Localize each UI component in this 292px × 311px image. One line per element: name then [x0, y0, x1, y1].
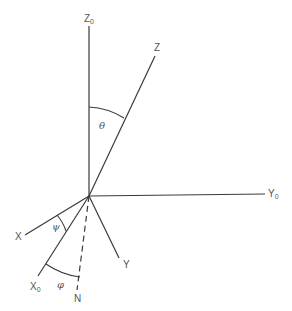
theta-arc	[89, 107, 124, 118]
y-label: Y	[123, 259, 130, 270]
x0-label: X0	[30, 281, 41, 293]
phi-arc	[46, 264, 80, 277]
n-label: N	[74, 293, 81, 304]
theta-label: θ	[99, 120, 105, 131]
y0-axis	[89, 194, 265, 196]
x-label: X	[15, 231, 22, 242]
y-axis	[89, 196, 119, 258]
euler-angle-diagram: Z0 Z Y0 Y X X0 N θ ψ φ	[0, 0, 292, 311]
psi-label: ψ	[52, 221, 60, 232]
x0-axis	[38, 196, 89, 276]
line-of-nodes-n	[77, 196, 89, 290]
phi-label: φ	[57, 279, 64, 290]
z0-label: Z0	[84, 13, 94, 25]
y0-label: Y0	[268, 188, 279, 200]
z-label: Z	[154, 42, 160, 53]
